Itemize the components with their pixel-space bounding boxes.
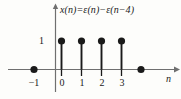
y-axis-amplitude-label: 1 <box>39 36 44 46</box>
x-tick-label-1: 1 <box>75 78 89 88</box>
sample-marker-n2 <box>98 37 105 44</box>
chart-title: x(n)=ε(n)−ε(n−4) <box>60 5 134 15</box>
x-tick-label-3: 3 <box>115 78 129 88</box>
x-tick-label-minus-1: −1 <box>27 78 41 88</box>
sample-marker-n-minus-1 <box>30 66 37 73</box>
x-tick-label-0: 0 <box>55 78 69 88</box>
y-axis-arrowhead <box>53 4 58 10</box>
sample-marker-n0 <box>58 37 65 44</box>
sample-marker-n1 <box>78 37 85 44</box>
sample-marker-n4 <box>137 66 144 73</box>
x-axis-name-label: n <box>166 74 171 84</box>
stem-plot-figure: x(n)=ε(n)−ε(n−4) 1 −1 0 1 2 3 n <box>0 0 181 99</box>
sample-marker-n3 <box>118 37 125 44</box>
x-axis-arrowhead <box>174 67 180 73</box>
x-tick-label-2: 2 <box>95 78 109 88</box>
